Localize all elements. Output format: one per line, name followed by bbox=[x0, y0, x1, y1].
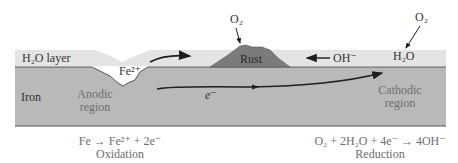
hydroxide-label: OH⁻ bbox=[333, 52, 357, 65]
cathodic-region-label: Cathodic region bbox=[370, 84, 430, 110]
reduction-title: Reduction bbox=[310, 148, 450, 161]
o2-to-rust-arrow bbox=[236, 28, 240, 43]
rust-label: Rust bbox=[240, 53, 262, 66]
o2-right-label: O₂ bbox=[415, 11, 428, 24]
reduction-caption: O₂ + 2H₂O + 4e⁻ → 4OH⁻ Reduction bbox=[310, 135, 450, 161]
o2-rust-label: O₂ bbox=[230, 13, 243, 26]
iron-label: Iron bbox=[21, 91, 41, 104]
anodic-region-label: Anodic region bbox=[70, 88, 120, 114]
electron-label: e⁻ bbox=[205, 89, 217, 102]
oxidation-caption: Fe → Fe²⁺ + 2e⁻ Oxidation bbox=[75, 135, 165, 161]
water-layer-label: H₂O layer bbox=[22, 52, 71, 65]
fe2plus-label: Fe²⁺ bbox=[119, 65, 141, 78]
oxidation-title: Oxidation bbox=[75, 148, 165, 161]
h2o-label: H₂O bbox=[393, 50, 415, 63]
o2-to-water-arrow bbox=[406, 26, 420, 48]
